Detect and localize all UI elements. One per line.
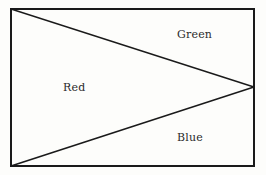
region-label-red: Red	[63, 82, 85, 94]
diagram-canvas	[0, 0, 266, 175]
region-label-green: Green	[177, 29, 212, 41]
diagram-container: Green Red Blue	[0, 0, 266, 175]
diagram-background	[0, 0, 266, 175]
region-label-blue: Blue	[177, 132, 203, 144]
